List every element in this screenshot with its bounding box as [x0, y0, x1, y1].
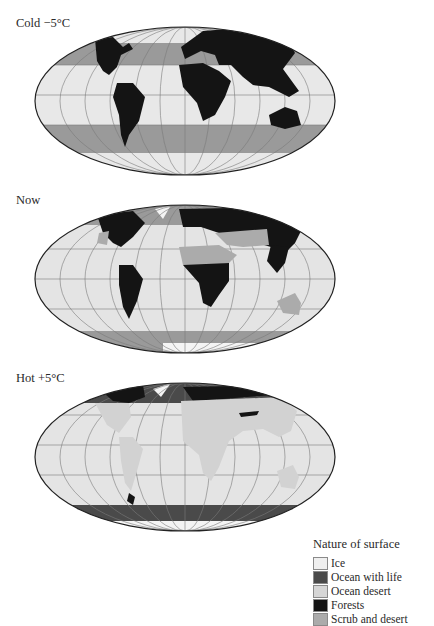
legend-item-ocean-with-life: Ocean with life	[313, 570, 408, 584]
legend-item-ocean-desert: Ocean desert	[313, 584, 408, 598]
legend-item-scrub-and-desert: Scrub and desert	[313, 612, 408, 626]
legend-item-ice: Ice	[313, 556, 408, 570]
world-map-cold	[33, 25, 337, 177]
swatch-ocean-desert	[313, 585, 328, 598]
legend-item-forests: Forests	[313, 598, 408, 612]
legend-label: Ice	[331, 557, 345, 569]
world-map-hot	[33, 381, 337, 533]
legend-title: Nature of surface	[313, 537, 408, 552]
legend: Nature of surface Ice Ocean with life Oc…	[313, 537, 408, 626]
swatch-ocean-with-life	[313, 571, 328, 584]
swatch-forests	[313, 599, 328, 612]
legend-label: Ocean with life	[331, 571, 402, 583]
swatch-scrub-and-desert	[313, 613, 328, 626]
legend-label: Forests	[331, 599, 364, 611]
world-map-now	[33, 203, 337, 355]
swatch-ice	[313, 557, 328, 570]
legend-label: Scrub and desert	[331, 613, 408, 625]
legend-label: Ocean desert	[331, 585, 391, 597]
